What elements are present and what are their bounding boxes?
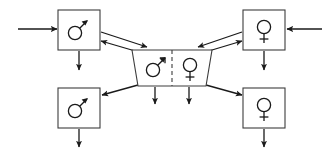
node-top-right-female[interactable] xyxy=(243,10,285,50)
population-flow-diagram xyxy=(0,0,336,152)
edge-center-to-bottom-right xyxy=(206,85,242,95)
diagram-canvas xyxy=(0,0,336,152)
edge-top-right-to-center xyxy=(198,32,242,47)
node-bottom-left-male[interactable] xyxy=(58,88,100,128)
edge-center-to-bottom-left xyxy=(102,85,138,95)
node-bottom-right-female[interactable] xyxy=(243,88,285,128)
edge-top-left-to-center xyxy=(101,32,147,47)
center-compartment[interactable] xyxy=(132,50,212,86)
node-top-left-male[interactable] xyxy=(58,10,100,50)
